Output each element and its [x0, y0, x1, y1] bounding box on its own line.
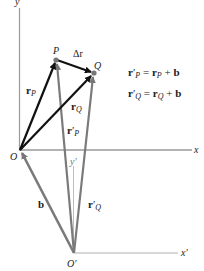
y-prime-axis-label: y′ [70, 157, 77, 167]
vector-diagram [0, 0, 204, 271]
point-Q [91, 70, 96, 75]
point-Q-label: Q [94, 61, 101, 71]
r-prime-P-label: r′P [67, 125, 79, 138]
vector-delta-r [57, 60, 91, 72]
point-P-label: P [53, 46, 59, 56]
r-prime-Q-label: r′Q [88, 199, 101, 212]
b-label: b [38, 199, 44, 210]
r-Q-label: rQ [71, 101, 82, 114]
origin-prime-label: O′ [67, 259, 76, 269]
vector-r-P [20, 63, 55, 150]
equation-r-prime-Q: r′Q = rQ + b [128, 88, 181, 101]
delta-r-label: Δr [73, 49, 83, 59]
y-axis-label: y [15, 0, 19, 7]
r-P-label: rP [26, 85, 36, 98]
equation-r-prime-P: r′P = rP + b [128, 67, 180, 80]
origin-label: O [10, 152, 17, 162]
x-axis-label: x [194, 145, 198, 155]
x-prime-axis-label: x′ [181, 248, 188, 258]
point-P [53, 57, 58, 62]
